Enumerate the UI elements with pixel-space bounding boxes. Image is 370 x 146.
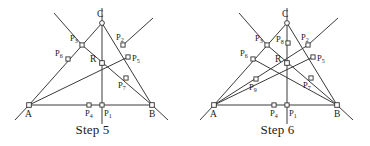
point-p9: [254, 77, 258, 81]
label-p2: P2: [301, 32, 309, 43]
ray-upper-right-through-p2: [123, 18, 153, 45]
point-p4: [272, 103, 276, 107]
side-bc: [287, 23, 337, 105]
point-p2: [306, 43, 310, 47]
label-p3: P3: [255, 33, 263, 44]
label-p6: P6: [55, 48, 63, 59]
side-bc: [102, 23, 152, 105]
label-p1: P1: [104, 108, 112, 119]
vertex-b: [150, 103, 155, 108]
label-p9: P9: [249, 82, 257, 93]
vertex-r: [285, 61, 290, 66]
ray-upper-left-through-p3: [239, 13, 267, 45]
point-p5: [126, 55, 130, 59]
point-p2: [121, 43, 125, 47]
point-p1: [285, 103, 289, 107]
caption-step-6: Step 6: [185, 122, 370, 138]
label-p4: P4: [85, 108, 93, 119]
point-p5: [311, 55, 315, 59]
cevian-a-to-p5: [29, 57, 128, 105]
ray-upper-right-through-p2: [308, 18, 338, 45]
label-p4: P4: [270, 108, 278, 119]
figure-step-5: P1P2P3P4P5P6P7ABCR Step 5: [0, 0, 185, 146]
label-vertex-b: B: [149, 109, 155, 119]
point-p3: [80, 43, 84, 47]
vertex-a: [27, 103, 32, 108]
point-p7: [309, 76, 313, 80]
label-p1: P1: [289, 108, 297, 119]
label-p5: P5: [317, 53, 325, 64]
vertex-c: [285, 21, 290, 26]
label-vertex-r: R: [90, 54, 97, 64]
point-p8: [286, 41, 290, 45]
side-ac: [29, 23, 102, 105]
label-p6: P6: [240, 48, 248, 59]
ray-upper-left-through-p3: [54, 13, 82, 45]
vertex-a: [212, 103, 217, 108]
vertex-c: [100, 21, 105, 26]
label-vertex-a: A: [210, 109, 217, 119]
label-p8: P8: [276, 34, 284, 45]
geometry-canvas-step-6: P1P2P3P4P5P6P7P8P9ABCR: [185, 0, 370, 124]
label-p5: P5: [132, 53, 140, 64]
point-p6: [66, 57, 70, 61]
label-vertex-c: C: [282, 9, 288, 19]
vertex-r: [100, 61, 105, 66]
label-vertex-a: A: [25, 109, 32, 119]
point-p3: [265, 43, 269, 47]
label-vertex-r: R: [275, 54, 282, 64]
vertex-b: [335, 103, 340, 108]
point-p7: [124, 76, 128, 80]
cevian-a-to-p2: [214, 45, 308, 105]
figure-step-6: P1P2P3P4P5P6P7P8P9ABCR Step 6: [185, 0, 370, 146]
label-vertex-c: C: [97, 9, 103, 19]
label-vertex-b: B: [334, 109, 340, 119]
point-p6: [251, 57, 255, 61]
point-p4: [87, 103, 91, 107]
caption-step-5: Step 5: [0, 122, 185, 138]
label-p3: P3: [70, 33, 78, 44]
point-p1: [100, 103, 104, 107]
label-p2: P2: [116, 32, 124, 43]
diagram-container: P1P2P3P4P5P6P7ABCR Step 5 P1P2P3P4P5P6P7…: [0, 0, 370, 146]
geometry-canvas-step-5: P1P2P3P4P5P6P7ABCR: [0, 0, 185, 124]
